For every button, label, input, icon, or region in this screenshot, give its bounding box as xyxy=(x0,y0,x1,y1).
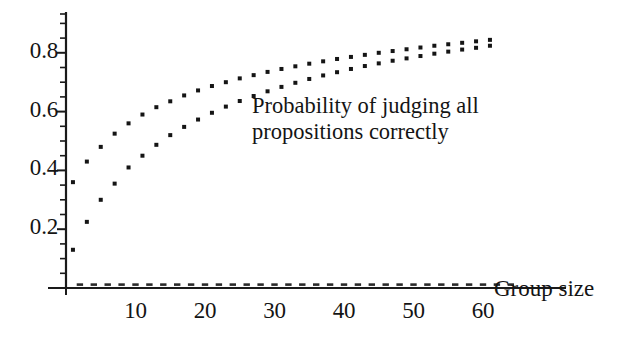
x-axis-tick-label: 20 xyxy=(182,298,228,324)
data-point xyxy=(196,88,200,92)
data-point xyxy=(321,59,325,63)
data-point xyxy=(335,57,339,61)
data-point xyxy=(321,73,325,77)
data-point xyxy=(363,53,367,57)
x-axis-tick-label: 10 xyxy=(113,298,159,324)
annotation-line-2: propositions correctly xyxy=(252,119,479,145)
data-point xyxy=(446,50,450,54)
data-point xyxy=(474,46,478,50)
chart-annotation: Probability of judging all propositions … xyxy=(252,93,479,145)
data-point xyxy=(474,39,478,43)
data-point xyxy=(405,47,409,51)
data-point xyxy=(113,182,117,186)
data-point xyxy=(182,93,186,97)
data-point xyxy=(127,165,131,169)
x-axis-tick-label: 30 xyxy=(252,298,298,324)
series-lower xyxy=(71,44,492,252)
data-point xyxy=(349,55,353,59)
data-point xyxy=(99,145,103,149)
data-point xyxy=(71,248,75,252)
data-point xyxy=(71,180,75,184)
data-point xyxy=(168,99,172,103)
data-point xyxy=(182,125,186,129)
data-point xyxy=(307,62,311,66)
data-point xyxy=(488,44,492,48)
data-point xyxy=(432,52,436,56)
data-point xyxy=(127,121,131,125)
data-point xyxy=(210,111,214,115)
y-axis-tick-label: 0.8 xyxy=(0,38,58,64)
data-point xyxy=(307,77,311,81)
y-axis-tick-label: 0.6 xyxy=(0,97,58,123)
data-point xyxy=(460,41,464,45)
data-point xyxy=(293,64,297,68)
data-point xyxy=(196,118,200,122)
data-point xyxy=(140,113,144,117)
data-point xyxy=(460,48,464,52)
data-point xyxy=(99,198,103,202)
data-point xyxy=(418,46,422,50)
data-point xyxy=(238,76,242,80)
x-axis-tick-label: 40 xyxy=(321,298,367,324)
data-point xyxy=(113,132,117,136)
data-point xyxy=(446,42,450,46)
data-point xyxy=(405,56,409,60)
data-point xyxy=(210,84,214,88)
y-axis-tick-label: 0.4 xyxy=(0,155,58,181)
x-axis-tick-label: 50 xyxy=(391,298,437,324)
data-point xyxy=(140,154,144,158)
data-point xyxy=(279,67,283,71)
annotation-line-1: Probability of judging all xyxy=(252,93,479,119)
data-point xyxy=(293,81,297,85)
data-point xyxy=(154,143,158,147)
data-point xyxy=(252,73,256,77)
data-point xyxy=(238,99,242,103)
data-point xyxy=(377,61,381,65)
data-point xyxy=(154,105,158,109)
data-point xyxy=(432,44,436,48)
data-point xyxy=(279,85,283,89)
data-point xyxy=(391,49,395,53)
data-point xyxy=(335,70,339,74)
data-point xyxy=(224,105,228,109)
data-point xyxy=(85,220,89,224)
x-axis-title: Group size xyxy=(494,276,594,302)
data-point xyxy=(168,133,172,137)
data-point xyxy=(377,51,381,55)
data-point xyxy=(488,38,492,42)
data-point xyxy=(349,67,353,71)
data-point xyxy=(224,80,228,84)
data-point xyxy=(266,70,270,74)
y-axis-tick-label: 0.2 xyxy=(0,214,58,240)
data-point xyxy=(363,64,367,68)
data-point xyxy=(85,160,89,164)
data-point xyxy=(391,59,395,63)
data-point xyxy=(418,54,422,58)
